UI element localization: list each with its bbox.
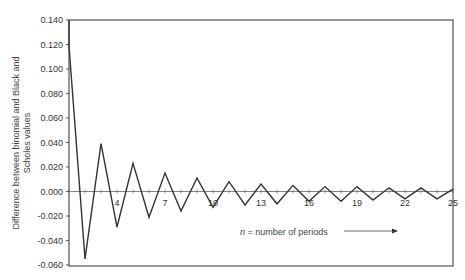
- svg-text:0.040: 0.040: [40, 138, 63, 148]
- annotation-text: = number of periods: [245, 227, 328, 237]
- svg-text:0.060: 0.060: [40, 113, 63, 123]
- svg-text:0.000: 0.000: [40, 187, 63, 197]
- svg-text:13: 13: [256, 198, 266, 208]
- svg-text:-0.060: -0.060: [37, 260, 63, 270]
- svg-text:0.100: 0.100: [40, 64, 63, 74]
- svg-text:4: 4: [114, 198, 119, 208]
- svg-text:0.140: 0.140: [40, 15, 63, 25]
- line-chart: 0.1400.1200.1000.0800.0600.0400.0200.000…: [0, 0, 465, 280]
- svg-text:0.120: 0.120: [40, 40, 63, 50]
- svg-text:19: 19: [352, 198, 362, 208]
- x-axis-annotation: n = number of periods: [240, 227, 328, 237]
- svg-text:25: 25: [448, 198, 458, 208]
- svg-text:0.080: 0.080: [40, 89, 63, 99]
- x-axis-ticks: 47101316192225: [69, 190, 458, 208]
- y-axis-ticks: 0.1400.1200.1000.0800.0600.0400.0200.000…: [37, 15, 69, 270]
- data-line: [69, 20, 453, 259]
- svg-text:-0.040: -0.040: [37, 236, 63, 246]
- svg-text:7: 7: [162, 198, 167, 208]
- arrow-icon: [344, 229, 398, 234]
- svg-text:-0.020: -0.020: [37, 211, 63, 221]
- svg-text:0.020: 0.020: [40, 162, 63, 172]
